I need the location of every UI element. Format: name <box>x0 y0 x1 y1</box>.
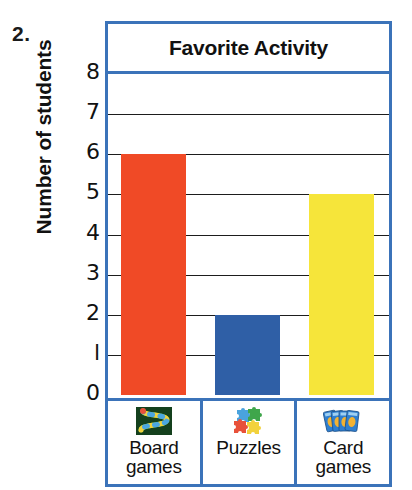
bars-group <box>108 74 389 395</box>
chart-title: Favorite Activity <box>169 36 328 60</box>
category-cell-board[interactable]: Boardgames <box>108 401 200 484</box>
y-tick-5: 5 <box>72 179 100 204</box>
category-cell-puzzles[interactable]: Puzzles <box>200 401 295 484</box>
category-label: Cardgames <box>315 438 371 477</box>
playing-cards-icon <box>323 406 363 436</box>
y-tick-7: 7 <box>72 99 100 124</box>
y-tick-0: 0 <box>72 380 100 405</box>
y-tick-8: 8 <box>72 59 100 84</box>
bar-puzzles <box>215 315 280 395</box>
question-number: 2. <box>12 22 31 46</box>
plot-area <box>108 74 389 395</box>
y-tick-3: 3 <box>72 259 100 284</box>
board-game-icon <box>134 406 174 436</box>
y-tick-6: 6 <box>72 139 100 164</box>
category-label: Puzzles <box>216 438 280 457</box>
y-tick-2: 2 <box>72 299 100 324</box>
category-cell-card[interactable]: Cardgames <box>294 401 389 484</box>
bar-chart: Favorite Activity BoardgamesPuzzlesCardg… <box>105 21 392 487</box>
puzzle-pieces-icon <box>229 406 269 436</box>
y-axis-tick-labels: 8765432l0 <box>72 0 100 490</box>
y-tick-4: 4 <box>72 219 100 244</box>
category-label: Boardgames <box>126 438 182 477</box>
chart-title-band: Favorite Activity <box>108 24 389 74</box>
y-axis-title: Number of students <box>32 7 56 267</box>
category-legend-row: BoardgamesPuzzlesCardgames <box>108 398 389 484</box>
bar-board <box>121 154 186 395</box>
y-tick-1: l <box>72 339 100 364</box>
worksheet-page: 2. Number of students 8765432l0 Favorite… <box>0 0 412 490</box>
bar-card <box>309 194 374 395</box>
